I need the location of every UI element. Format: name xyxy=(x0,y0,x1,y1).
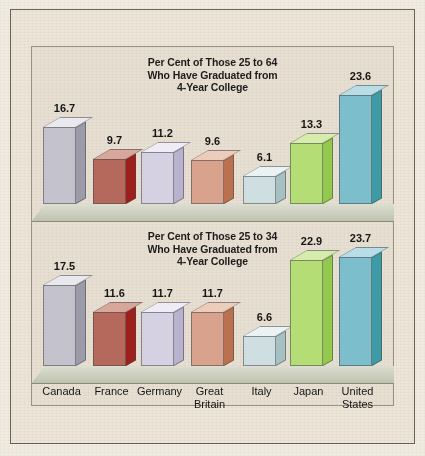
bar-3d-body xyxy=(141,312,174,366)
panel-bottom-floor xyxy=(31,366,394,384)
panel-top-floor xyxy=(31,204,394,222)
bar-side-face xyxy=(76,121,86,204)
category-label-line: Great xyxy=(182,385,237,398)
chart-figure: Per Cent of Those 25 to 64 Who Have Grad… xyxy=(0,0,425,456)
bar-side-face xyxy=(126,307,136,366)
bar-front-face xyxy=(191,160,224,204)
bar-3d-body xyxy=(339,257,372,366)
category-label-line: Japan xyxy=(281,385,336,398)
panel-bottom-floor-shading xyxy=(31,366,394,384)
bar-3d-body xyxy=(191,160,224,204)
category-label-line: United xyxy=(330,385,385,398)
bar-side-face xyxy=(323,137,333,204)
bar-value-label: 11.6 xyxy=(98,287,131,299)
panel-top-title-line-1: Per Cent of Those 25 to 64 xyxy=(31,56,394,69)
bar-value-label: 11.2 xyxy=(146,127,179,139)
chart-panel-top: Per Cent of Those 25 to 64 Who Have Grad… xyxy=(31,46,394,226)
bar-front-face xyxy=(243,176,276,204)
bar-3d-body xyxy=(339,95,372,204)
bar-front-face xyxy=(191,312,224,366)
bar-front-face xyxy=(243,336,276,366)
bar-front-face xyxy=(43,127,76,204)
bar-value-label: 6.6 xyxy=(248,311,281,323)
panel-top-title-line-2: Who Have Graduated from xyxy=(31,69,394,82)
bar-top-united-states: 23.6 xyxy=(339,95,372,204)
category-label-line: Germany xyxy=(132,385,187,398)
bar-side-face xyxy=(323,254,333,366)
panel-bottom-title: Per Cent of Those 25 to 34 Who Have Grad… xyxy=(31,230,394,268)
panel-top-title-line-3: 4-Year College xyxy=(31,81,394,94)
bar-side-face xyxy=(224,154,234,204)
bar-front-face xyxy=(141,152,174,204)
bar-side-face xyxy=(174,146,184,204)
bar-front-face xyxy=(141,312,174,366)
bar-3d-body xyxy=(141,152,174,204)
bar-value-label: 11.7 xyxy=(146,287,179,299)
category-label-line: Canada xyxy=(34,385,89,398)
bar-front-face xyxy=(93,159,126,204)
bar-value-label: 9.6 xyxy=(196,135,229,147)
category-label-japan: Japan xyxy=(281,385,336,398)
bar-side-face xyxy=(372,251,382,366)
bar-3d-body xyxy=(93,312,126,366)
category-label-united-states: UnitedStates xyxy=(330,385,385,410)
bar-value-label: 16.7 xyxy=(48,102,81,114)
category-label-france: France xyxy=(84,385,139,398)
bar-top-great-britain: 9.6 xyxy=(191,160,224,204)
bar-3d-body xyxy=(191,312,224,366)
bar-value-label: 11.7 xyxy=(196,287,229,299)
category-label-line: France xyxy=(84,385,139,398)
bar-front-face xyxy=(290,260,323,366)
bar-side-face xyxy=(224,306,234,366)
panel-top-floor-shading xyxy=(31,204,394,222)
bar-bottom-france: 11.6 xyxy=(93,312,126,366)
panel-top-title: Per Cent of Those 25 to 64 Who Have Grad… xyxy=(31,56,394,94)
bar-front-face xyxy=(93,312,126,366)
bar-side-face xyxy=(76,279,86,366)
bar-bottom-italy: 6.6 xyxy=(243,336,276,366)
bar-3d-body xyxy=(290,143,323,204)
bar-top-italy: 6.1 xyxy=(243,176,276,204)
bar-front-face xyxy=(339,257,372,366)
category-label-canada: Canada xyxy=(34,385,89,398)
panel-bottom-title-line-1: Per Cent of Those 25 to 34 xyxy=(31,230,394,243)
category-label-line: States xyxy=(330,398,385,411)
bar-bottom-united-states: 23.7 xyxy=(339,257,372,366)
panel-bottom-title-line-3: 4-Year College xyxy=(31,255,394,268)
bar-3d-body xyxy=(43,285,76,366)
bar-value-label: 6.1 xyxy=(248,151,281,163)
bar-side-face xyxy=(372,89,382,204)
bar-side-face xyxy=(276,170,286,204)
bar-3d-body xyxy=(93,159,126,204)
bar-3d-body xyxy=(43,127,76,204)
bar-3d-body xyxy=(290,260,323,366)
bar-3d-body xyxy=(243,336,276,366)
category-label-line: Britain xyxy=(182,398,237,411)
bar-front-face xyxy=(290,143,323,204)
bar-side-face xyxy=(276,330,286,366)
bar-top-germany: 11.2 xyxy=(141,152,174,204)
bar-side-face xyxy=(174,306,184,366)
bar-side-face xyxy=(126,153,136,204)
bar-value-label: 9.7 xyxy=(98,134,131,146)
panel-bottom-title-line-2: Who Have Graduated from xyxy=(31,243,394,256)
category-label-great-britain: GreatBritain xyxy=(182,385,237,410)
bar-bottom-canada: 17.5 xyxy=(43,285,76,366)
bar-front-face xyxy=(339,95,372,204)
bar-top-japan: 13.3 xyxy=(290,143,323,204)
bar-bottom-great-britain: 11.7 xyxy=(191,312,224,366)
bar-bottom-japan: 22.9 xyxy=(290,260,323,366)
category-axis-labels: CanadaFranceGermanyGreatBritainItalyJapa… xyxy=(31,385,394,425)
chart-panel-bottom: Per Cent of Those 25 to 34 Who Have Grad… xyxy=(31,226,394,406)
bar-value-label: 13.3 xyxy=(295,118,328,130)
category-label-germany: Germany xyxy=(132,385,187,398)
bar-top-france: 9.7 xyxy=(93,159,126,204)
bar-3d-body xyxy=(243,176,276,204)
bar-bottom-germany: 11.7 xyxy=(141,312,174,366)
bar-front-face xyxy=(43,285,76,366)
bar-top-canada: 16.7 xyxy=(43,127,76,204)
